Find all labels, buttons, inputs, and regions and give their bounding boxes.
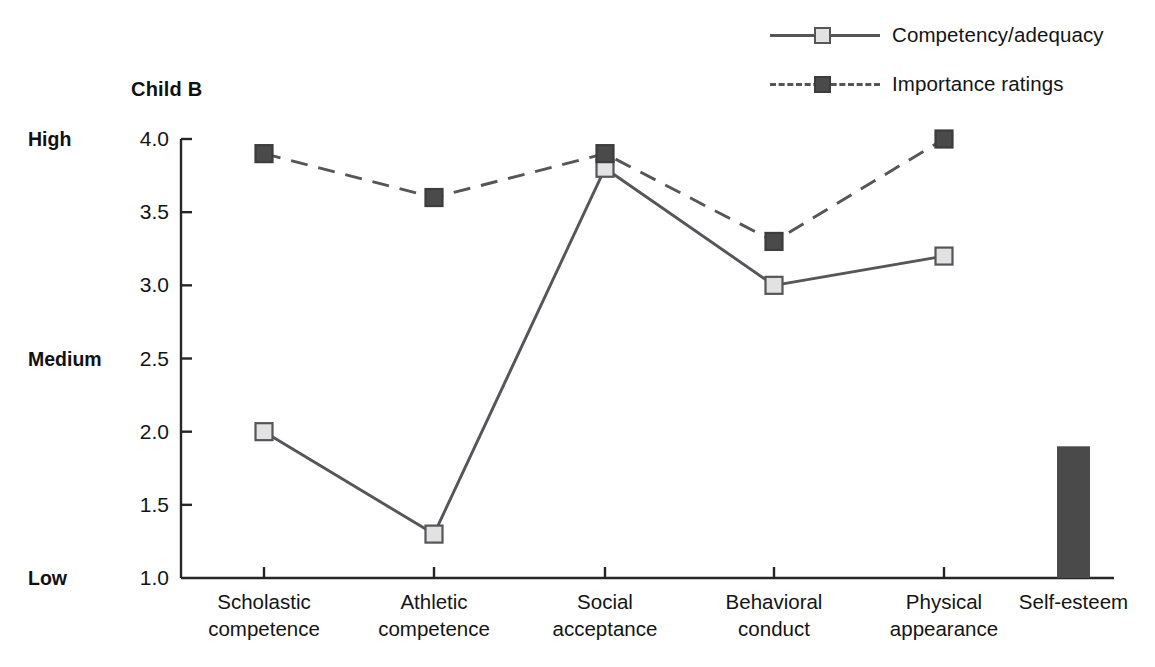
chart-figure: Competency/adequacy Importance ratings C… bbox=[0, 0, 1155, 667]
x-tick-label: Physicalappearance bbox=[890, 588, 998, 642]
data-point-marker bbox=[426, 526, 443, 543]
data-point-marker bbox=[766, 277, 783, 294]
x-tick-label-self-esteem: Self-esteem bbox=[1019, 588, 1128, 615]
x-tick-label-line: conduct bbox=[726, 615, 823, 642]
y-tick-label: 4.0 bbox=[113, 127, 169, 151]
y-tick-label: 1.5 bbox=[113, 493, 169, 517]
x-tick-label: Behavioralconduct bbox=[726, 588, 823, 642]
x-tick-label-line: competence bbox=[208, 615, 320, 642]
x-tick-label-line: appearance bbox=[890, 615, 998, 642]
x-tick-label-line: acceptance bbox=[553, 615, 658, 642]
data-point-marker bbox=[426, 189, 443, 206]
series-importance bbox=[256, 131, 953, 250]
y-tick-label: 3.5 bbox=[113, 200, 169, 224]
y-tick-label: 2.5 bbox=[113, 347, 169, 371]
x-ticks bbox=[264, 567, 944, 578]
x-tick-label: Socialacceptance bbox=[553, 588, 658, 642]
self-esteem-bar bbox=[1057, 446, 1090, 578]
axes bbox=[181, 139, 1114, 578]
series-competency bbox=[256, 160, 953, 543]
plot-area: 4.0High3.53.02.5Medium2.01.51.0LowSchola… bbox=[0, 0, 1155, 667]
data-point-marker bbox=[936, 131, 953, 148]
x-tick-label-line: Physical bbox=[890, 588, 998, 615]
data-point-marker bbox=[256, 145, 273, 162]
y-tick-label: 1.0 bbox=[113, 566, 169, 590]
x-tick-label-line: Behavioral bbox=[726, 588, 823, 615]
x-tick-label: Scholasticcompetence bbox=[208, 588, 320, 642]
x-tick-label-line: Athletic bbox=[378, 588, 490, 615]
y-tick-label: 2.0 bbox=[113, 420, 169, 444]
y-ticks bbox=[181, 139, 192, 505]
plot-svg bbox=[0, 0, 1155, 667]
y-tick-label: 3.0 bbox=[113, 273, 169, 297]
data-point-marker bbox=[597, 145, 614, 162]
x-tick-label-line: competence bbox=[378, 615, 490, 642]
x-tick-label-line: Social bbox=[553, 588, 658, 615]
x-tick-label: Athleticcompetence bbox=[378, 588, 490, 642]
y-band-label-low: Low bbox=[28, 567, 114, 590]
self-esteem-bar-group bbox=[1057, 446, 1090, 578]
data-point-marker bbox=[766, 233, 783, 250]
data-point-marker bbox=[256, 423, 273, 440]
data-point-marker bbox=[936, 248, 953, 265]
series-line-0 bbox=[264, 168, 944, 534]
y-band-label-medium: Medium bbox=[28, 347, 114, 370]
x-tick-label-line: Scholastic bbox=[208, 588, 320, 615]
y-band-label-high: High bbox=[28, 128, 114, 151]
